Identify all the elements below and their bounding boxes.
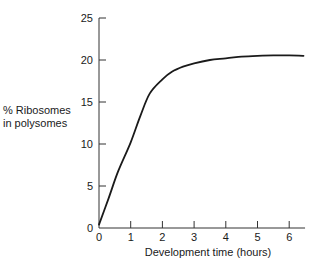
x-tick-label: 4 [223, 231, 229, 243]
x-tick-label: 0 [96, 231, 102, 243]
x-tick-label: 3 [191, 231, 197, 243]
y-tick-label: 0 [87, 222, 93, 234]
y-tick-label: 25 [81, 12, 93, 24]
y-axis-label-line-2: in polysomes [3, 117, 68, 129]
x-tick-label: 2 [159, 231, 165, 243]
y-tick-label: 5 [87, 180, 93, 192]
x-axis: 0123456 [96, 221, 305, 243]
y-axis: 0510152025 [81, 12, 106, 234]
x-tick-label: 6 [286, 231, 292, 243]
y-tick-label: 15 [81, 96, 93, 108]
y-tick-label: 20 [81, 54, 93, 66]
x-tick-label: 1 [128, 231, 134, 243]
data-curve [99, 55, 304, 224]
y-tick-label: 10 [81, 138, 93, 150]
x-axis-label: Development time (hours) [145, 246, 272, 258]
x-tick-label: 5 [254, 231, 260, 243]
line-chart: 0510152025 0123456 % Ribosomes in polyso… [0, 0, 312, 260]
y-axis-label-line-1: % Ribosomes [3, 104, 71, 116]
